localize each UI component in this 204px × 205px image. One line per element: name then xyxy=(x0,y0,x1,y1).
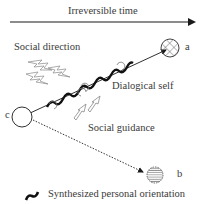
social-direction-label: Social direction xyxy=(14,42,80,53)
point-b-label: b xyxy=(177,169,182,180)
node-c xyxy=(12,107,32,127)
lightning-icon xyxy=(26,60,70,84)
social-guidance-arrow-icons xyxy=(74,96,100,120)
time-axis-label: Irreversible time xyxy=(68,6,138,17)
point-c-label: c xyxy=(5,110,10,121)
diagram-canvas xyxy=(0,0,204,205)
legend-wave-icon xyxy=(26,192,38,200)
legend-label: Synthesized personal orientation xyxy=(48,189,185,200)
point-a-label: a xyxy=(185,42,190,53)
dialogical-self-label: Dialogical self xyxy=(112,81,174,92)
node-a xyxy=(161,39,179,57)
social-guidance-label: Social guidance xyxy=(88,123,155,134)
node-b xyxy=(147,167,163,183)
